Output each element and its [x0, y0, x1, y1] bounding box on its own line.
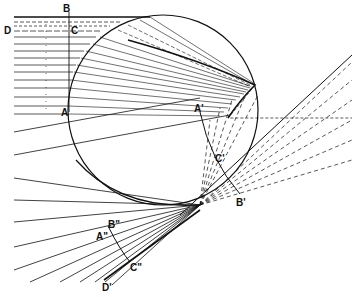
internal-rays-upper [68, 17, 255, 116]
label-B-prime: B' [236, 197, 246, 208]
label-C-dprime: C" [130, 262, 142, 273]
label-B-dprime: B" [108, 219, 120, 230]
label-C-prime: C' [215, 153, 225, 164]
label-A-prime: A' [194, 103, 204, 114]
caustic-curve-lower [76, 160, 200, 205]
ray-optics-diagram: B C D A A' B' C' B" A" C" D' [0, 0, 357, 297]
incoming-oblique-rays [14, 98, 230, 285]
label-A-dprime: A" [96, 231, 108, 242]
caustic-curve-upper [128, 40, 255, 118]
label-D: D [4, 25, 11, 36]
label-C: C [71, 25, 78, 36]
sphere-circle [68, 15, 258, 205]
label-D-prime: D' [102, 282, 112, 293]
outgoing-rays [200, 62, 352, 205]
label-B: B [63, 3, 70, 14]
label-A: A [61, 107, 68, 118]
